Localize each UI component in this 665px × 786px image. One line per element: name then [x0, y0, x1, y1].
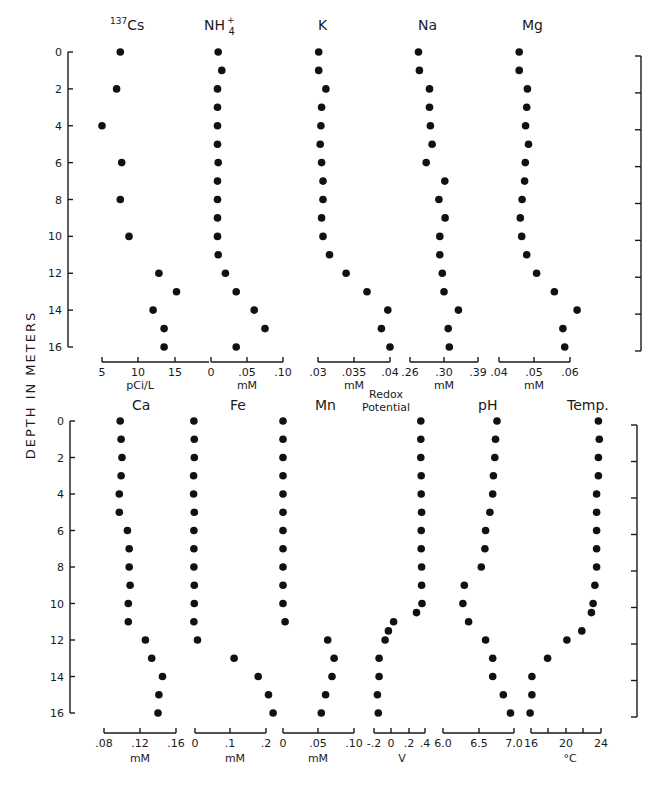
data-point	[318, 214, 326, 222]
panel-title: Potential	[362, 401, 410, 414]
data-point	[214, 214, 222, 222]
data-point	[441, 177, 449, 185]
data-point	[559, 325, 567, 333]
data-point	[461, 582, 469, 590]
data-point	[436, 251, 444, 259]
data-point	[482, 527, 490, 535]
data-point	[214, 140, 222, 148]
data-point	[491, 454, 499, 462]
panel-title: NH+4	[204, 15, 235, 37]
x-axis-unit: mM	[308, 752, 328, 765]
data-point	[375, 673, 383, 681]
data-point	[417, 527, 425, 535]
x-tick-label: .12	[131, 737, 149, 750]
data-point	[591, 582, 599, 590]
data-point	[315, 48, 323, 56]
data-point	[489, 655, 497, 663]
data-point	[155, 691, 163, 699]
depth-tick-label: 6	[55, 157, 62, 170]
data-point	[440, 288, 448, 296]
data-point	[194, 636, 202, 644]
data-point	[326, 251, 334, 259]
data-point	[427, 122, 435, 130]
panel-title: Mn	[315, 397, 336, 413]
data-point	[593, 527, 601, 535]
data-point	[589, 600, 597, 608]
x-axis-unit: mM	[130, 752, 150, 765]
data-point	[595, 472, 603, 480]
x-tick-label: .2	[404, 737, 415, 750]
data-point	[191, 600, 199, 608]
data-point	[417, 472, 425, 480]
data-point	[342, 270, 350, 278]
panel-temp-: Temp.162024°C	[524, 397, 609, 765]
data-point	[417, 490, 425, 498]
x-tick-label: .4	[420, 737, 431, 750]
panel-mn: Mn0.05.10mM	[279, 397, 363, 765]
data-point	[455, 306, 463, 314]
data-point	[521, 177, 529, 185]
x-tick-label: .16	[167, 737, 185, 750]
data-point	[426, 104, 434, 112]
x-axis-unit: pCi/L	[126, 379, 154, 392]
depth-tick-label: 0	[55, 46, 62, 59]
data-point	[518, 233, 526, 241]
data-point	[507, 709, 515, 717]
depth-tick-label: 14	[48, 304, 62, 317]
y-axis-label: DEPTH IN METERS	[23, 311, 38, 459]
depth-tick-label: 4	[55, 120, 62, 133]
x-tick-label: 0	[192, 737, 199, 750]
data-point	[160, 343, 168, 351]
data-point	[191, 436, 199, 444]
x-tick-label: 16	[524, 737, 538, 750]
data-point	[518, 196, 526, 204]
data-point	[446, 343, 454, 351]
data-point	[214, 196, 222, 204]
x-axis-unit: mM	[434, 379, 454, 392]
panel-title: Fe	[230, 397, 246, 413]
data-point	[415, 48, 423, 56]
data-point	[269, 709, 277, 717]
data-point	[319, 233, 327, 241]
data-point	[214, 104, 222, 112]
x-axis-unit: mM	[225, 752, 245, 765]
data-point	[524, 85, 532, 93]
data-point	[214, 48, 222, 56]
x-tick-label: .1	[225, 737, 236, 750]
depth-profile-figure: DEPTH IN METERS 0246810121416 0246810121…	[0, 0, 665, 786]
data-point	[98, 122, 106, 130]
data-point	[148, 655, 156, 663]
data-point	[279, 563, 287, 571]
data-point	[279, 436, 287, 444]
x-tick-label: 6.5	[470, 737, 488, 750]
data-point	[322, 691, 330, 699]
data-point	[515, 48, 523, 56]
panel-ph: pH6.06.57.0	[434, 397, 523, 750]
x-axis-unit: V	[398, 752, 406, 765]
panel-nh4-: NH+40.05.10mM	[204, 15, 292, 392]
data-point	[125, 563, 133, 571]
data-point	[191, 582, 199, 590]
depth-axis-bottom: 0246810121416	[50, 415, 75, 720]
x-tick-label: .04	[490, 366, 508, 379]
x-tick-label: .10	[345, 737, 363, 750]
depth-tick-label: 2	[55, 83, 62, 96]
x-tick-label: .05	[238, 366, 256, 379]
data-point	[265, 691, 273, 699]
depth-tick-label: 16	[48, 341, 62, 354]
data-point	[482, 636, 490, 644]
data-point	[523, 251, 531, 259]
data-point	[319, 196, 327, 204]
data-point	[515, 67, 523, 75]
data-point	[459, 600, 467, 608]
data-point	[155, 270, 163, 278]
x-axis-unit: mM	[237, 379, 257, 392]
depth-tick-label: 12	[50, 634, 64, 647]
data-point	[279, 417, 287, 425]
x-tick-label: 6.0	[434, 737, 452, 750]
data-point	[593, 563, 601, 571]
data-point	[318, 159, 326, 167]
depth-tick-label: 10	[50, 598, 64, 611]
data-point	[595, 417, 603, 425]
x-tick-label: 10	[131, 366, 145, 379]
